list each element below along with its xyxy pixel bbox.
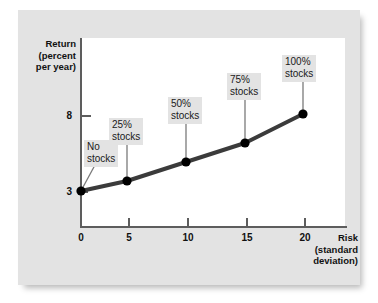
data-point-5 (122, 176, 131, 185)
callout-75-stocks: 75% stocks (227, 73, 261, 100)
callout-100-stocks: 100% stocks (282, 55, 316, 82)
data-point-10 (181, 157, 190, 166)
figure-panel: Return (percent per year) Risk (standard… (18, 10, 360, 285)
leader-line-no-stocks (82, 165, 95, 189)
callout-50-stocks: 50% stocks (168, 97, 202, 124)
data-point-0 (76, 186, 85, 195)
data-point-20 (298, 109, 307, 118)
callout-25-stocks: 25% stocks (109, 118, 143, 145)
chart-plot (18, 10, 360, 285)
data-point-15 (240, 138, 249, 147)
